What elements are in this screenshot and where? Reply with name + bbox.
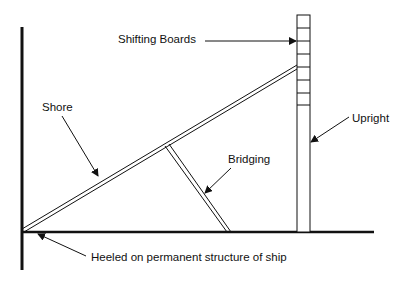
label-bridging: Bridging — [228, 154, 270, 166]
shoring-diagram — [0, 0, 408, 286]
arrow-bridging — [205, 168, 231, 193]
bridging — [165, 144, 231, 232]
label-upright: Upright — [352, 113, 389, 125]
arrow-heeled — [38, 234, 86, 256]
label-heeled: Heeled on permanent structure of ship — [91, 252, 287, 264]
upright — [297, 15, 310, 232]
arrow-upright — [311, 117, 349, 142]
shore — [22, 65, 297, 232]
label-shore: Shore — [42, 102, 73, 114]
label-shifting-boards: Shifting Boards — [118, 34, 196, 46]
arrow-shore — [62, 116, 98, 176]
